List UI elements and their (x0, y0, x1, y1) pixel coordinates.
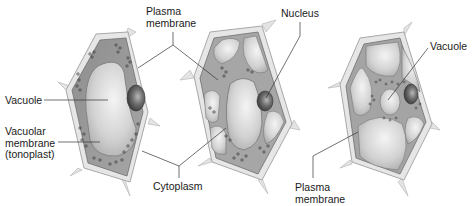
label-vacuolar-membrane: Vacuolar membrane (tonoplast) (5, 126, 55, 161)
label-cytoplasm: Cytoplasm (153, 181, 203, 193)
vacuole (226, 78, 262, 150)
plant-cell-diagram (0, 0, 473, 206)
leader-plasma-membrane-top-left (138, 45, 173, 68)
label-nucleus: Nucleus (281, 8, 319, 20)
vacuole-small (204, 90, 220, 122)
cell-2 (180, 20, 300, 194)
label-vacuole-right: Vacuole (430, 41, 467, 53)
label-plasma-membrane-top: Plasma membrane (146, 6, 196, 29)
nucleus (257, 91, 273, 111)
cell-1 (58, 28, 160, 196)
vacuole (380, 89, 400, 115)
nucleus (127, 85, 145, 111)
nucleus (404, 84, 418, 104)
label-vacuole-left: Vacuole (5, 95, 42, 107)
leader-cytoplasm-left (142, 151, 179, 166)
vacuole-large (366, 42, 400, 76)
label-plasma-membrane-bottom: Plasma membrane (295, 182, 345, 205)
cell-3 (328, 22, 440, 196)
